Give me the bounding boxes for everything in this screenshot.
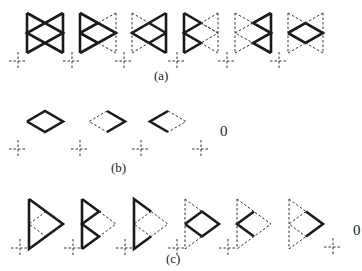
edge: [132, 43, 149, 53]
edge: [80, 33, 98, 43]
origin-cross-icon: [270, 52, 288, 70]
edge: [306, 43, 324, 53]
origin-cross-icon: [115, 52, 133, 70]
edge: [134, 199, 151, 249]
origin-cross-icon: [9, 140, 27, 158]
edge: [201, 43, 218, 53]
edge: [98, 43, 116, 53]
bowtie-shape-5: [235, 13, 271, 53]
edge: [82, 199, 99, 249]
origin-cross-icon: [219, 239, 237, 257]
bowtie-shape-3: [132, 13, 166, 53]
triangle-shape-3: [134, 199, 168, 249]
triangle-shape-5: [237, 199, 271, 249]
edge: [107, 111, 125, 132]
edge: [149, 23, 166, 33]
edge: [185, 237, 202, 250]
edge: [150, 111, 168, 132]
edge: [168, 111, 186, 132]
edge: [89, 111, 107, 132]
edge: [132, 13, 166, 53]
figure-canvas: (a) (b) (c) 0 0: [0, 0, 362, 271]
diamond-shape-2: [89, 111, 125, 132]
edge: [237, 199, 271, 249]
bowtie-shape-1: [27, 13, 63, 53]
edge: [288, 43, 306, 53]
bowtie-shape-6: [288, 13, 323, 53]
origin-cross-icon: [64, 239, 82, 257]
diamond-shape-1: [27, 111, 63, 132]
panel-label-a: (a): [154, 68, 168, 83]
edge: [237, 212, 254, 237]
origin-cross-icon: [116, 239, 134, 257]
edge: [149, 33, 166, 43]
edge: [27, 111, 63, 132]
panel-a: [9, 13, 323, 70]
triangle-shape-1: [29, 199, 63, 249]
edge: [253, 13, 271, 53]
edge: [289, 237, 306, 250]
edge: [184, 13, 201, 53]
edge: [288, 23, 323, 43]
origin-cross-icon: [168, 52, 186, 70]
edge: [289, 212, 306, 237]
edge: [80, 13, 116, 53]
edge: [134, 212, 151, 237]
zero-label-b: 0: [220, 123, 228, 139]
origin-cross-icon: [11, 239, 29, 257]
origin-cross-icon: [9, 52, 27, 70]
edge: [306, 212, 323, 237]
diamond-shape-3: [150, 111, 186, 132]
edge: [201, 23, 218, 33]
triangle-shape-2: [82, 199, 116, 249]
origin-cross-icon: [192, 140, 210, 158]
edge: [98, 13, 116, 23]
panel-b: [9, 111, 210, 158]
edge: [27, 13, 63, 53]
panel-c: [11, 199, 342, 257]
origin-cross-icon: [132, 140, 150, 158]
bowtie-shape-4: [184, 13, 218, 53]
edge: [29, 212, 46, 237]
origin-cross-icon: [63, 52, 81, 70]
edge: [235, 13, 253, 23]
origin-cross-icon: [71, 140, 89, 158]
edge: [132, 13, 149, 23]
edge: [235, 43, 253, 53]
bowtie-shape-2: [80, 13, 116, 53]
panel-label-b: (b): [111, 160, 126, 175]
edge: [288, 13, 306, 23]
origin-cross-icon: [218, 52, 236, 70]
edge: [201, 23, 218, 43]
zero-label-c: 0: [353, 222, 361, 238]
edge: [151, 212, 168, 237]
edge: [289, 199, 306, 212]
edge: [306, 13, 324, 23]
edge: [29, 199, 63, 249]
edge: [27, 13, 63, 53]
edge: [235, 23, 253, 43]
triangle-shape-6: [289, 199, 323, 249]
edge: [185, 212, 219, 237]
edge: [80, 23, 98, 33]
triangle-shape-4: [185, 199, 219, 249]
panel-label-c: (c): [166, 251, 180, 266]
edge: [185, 199, 202, 212]
edge: [99, 212, 116, 237]
origin-cross-icon: [324, 238, 342, 256]
edge: [201, 13, 218, 23]
